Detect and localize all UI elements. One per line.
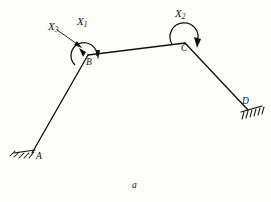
force-label-X3-subscript: 3 <box>55 25 59 34</box>
force-label-X1-subscript: 1 <box>84 20 88 29</box>
node-label-C: C <box>181 44 187 54</box>
X1-arrowhead <box>79 48 86 57</box>
X3-arrowhead <box>74 41 82 48</box>
figure-caption: a <box>132 181 137 191</box>
frame-diagram-svg <box>0 0 271 202</box>
force-label-X3: X3 <box>48 21 58 34</box>
force-label-X3-base: X <box>48 20 55 32</box>
member-C-D <box>185 43 248 110</box>
node-label-D: D <box>242 97 249 107</box>
force-label-X1-base: X <box>77 15 84 27</box>
force-label-X2: X2 <box>175 8 185 21</box>
force-X3-leader <box>57 30 82 48</box>
X2-arrowhead <box>194 37 201 48</box>
figure-container: A B C D X1 X2 X3 a <box>0 0 271 202</box>
support-A-fixed <box>10 150 35 158</box>
support-D-fixed <box>241 106 264 119</box>
member-A-B <box>32 55 88 153</box>
force-label-X2-subscript: 2 <box>182 12 186 21</box>
node-label-A: A <box>36 152 42 162</box>
X2-arc-path <box>170 23 198 44</box>
force-label-X2-base: X <box>175 7 182 19</box>
structure-members <box>32 43 248 153</box>
member-B-C <box>88 43 185 55</box>
node-label-B: B <box>86 58 92 68</box>
force-label-X1: X1 <box>77 16 87 29</box>
